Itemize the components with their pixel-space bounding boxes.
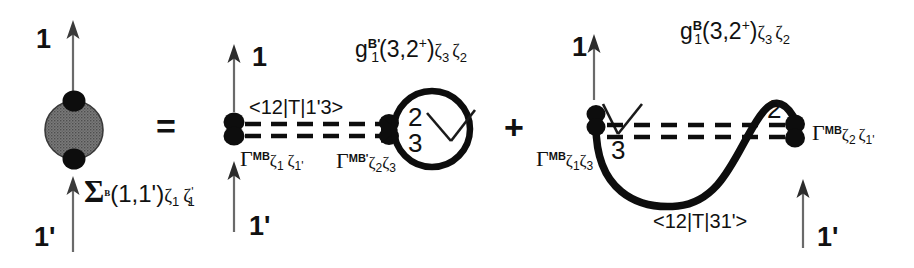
gamma-sub-zeta-a: ζ (270, 151, 277, 170)
g-argument-close: ) (427, 36, 435, 62)
gamma-sub-index-b: 1' (866, 133, 875, 147)
g-sub-zeta-a: ζ (435, 41, 442, 61)
g-symbol: g (355, 36, 368, 62)
g-arguments: (3,2 (379, 36, 419, 62)
gamma-sub-index-a: 1 (573, 159, 580, 173)
term2-interaction-dashes (607, 125, 790, 137)
term2-top-leg-label: 1 (572, 34, 587, 61)
term1-bottom-leg-label: 1' (249, 213, 270, 240)
g-sub-index-b: 2 (460, 50, 467, 65)
term1-propagator-loop (394, 91, 475, 167)
gamma-sub-index-a: 2 (849, 133, 856, 147)
term2-interaction-label: <12|T|31'> (653, 211, 747, 231)
g-sub-index: 1 (694, 31, 702, 47)
gamma-sub-zeta-a: ζ (566, 151, 573, 170)
g-sub-index-a: 3 (765, 32, 772, 47)
term2-left-line-label: 3 (611, 137, 625, 163)
sigma-sub-index-2: 1 (187, 194, 194, 209)
lhs-top-leg-label: 1 (36, 26, 51, 53)
term2-right-vertex-dot (785, 115, 805, 148)
gamma-symbol: Γ (240, 146, 253, 171)
gamma-superscript: MB (825, 124, 842, 136)
gamma-symbol: Γ (336, 148, 349, 173)
gamma-superscript: MB' (349, 152, 369, 164)
term2-propagator-curve (596, 103, 793, 206)
plus-operator: + (504, 110, 524, 144)
gamma-superscript: MB (253, 150, 270, 162)
gamma-sub-index-b: 3 (389, 161, 396, 175)
term2-propagator-label: gB1(3,2+)ζ3ζ2 (680, 18, 790, 46)
g-argument-plus: + (419, 35, 427, 51)
lhs-caption: ΣB(1,1')ζ1ζ'1 (84, 176, 195, 208)
g-sub-zeta-a: ζ (757, 23, 764, 43)
g-arguments: (3,2 (702, 18, 742, 44)
gamma-sub-index-b: 3 (587, 159, 594, 173)
term1-bottom-leg (228, 161, 241, 232)
gamma-superscript: MB (549, 150, 566, 162)
g-sub-zeta-b: ζ (452, 41, 459, 61)
gamma-sub-zeta-b: ζ (580, 151, 587, 170)
sigma-sub-index-1: 1 (172, 194, 179, 209)
gamma-sub-index-b: 1' (295, 159, 304, 173)
term1-loop-lower-label: 3 (408, 130, 422, 156)
term2-left-vertex-label: ΓMBζ1ζ3 (536, 148, 593, 172)
gamma-symbol: Γ (536, 146, 549, 171)
term1-left-vertex-dot (224, 113, 245, 146)
term2-right-line-label: 2 (767, 96, 781, 122)
term1-top-leg (228, 44, 241, 112)
term2-top-leg (588, 34, 601, 100)
lhs-top-leg (67, 20, 80, 93)
self-energy-blob-shape (45, 91, 103, 170)
lhs-bottom-leg (67, 176, 80, 252)
gamma-sub-zeta-b: ζ (859, 125, 866, 144)
gamma-sub-zeta-b: ζ (288, 151, 295, 170)
lhs-bottom-leg-label: 1' (34, 224, 55, 251)
term1-interaction-dashes (245, 124, 383, 136)
g-sub-index-b: 2 (783, 32, 790, 47)
gamma-symbol: Γ (812, 120, 825, 145)
g-sub-index-a: 3 (442, 50, 449, 65)
g-symbol: g (680, 18, 693, 44)
term1-interaction-label: <12|T|1'3> (249, 97, 343, 117)
term1-top-leg-label: 1 (252, 44, 267, 71)
gamma-sub-zeta-a: ζ (368, 153, 375, 172)
term2-left-vertex-dot (587, 105, 606, 136)
sigma-sub-zeta-1: ζ (164, 185, 172, 206)
gamma-sub-zeta-a: ζ (842, 125, 849, 144)
sigma-symbol: Σ (84, 174, 104, 209)
term1-left-vertex-label: ΓMBζ1ζ1' (240, 148, 304, 172)
term1-loop-upper-label: 2 (408, 104, 422, 130)
sigma-arguments: (1,1') (110, 180, 164, 207)
g-sub-index: 1 (371, 49, 379, 65)
term1-right-vertex-label: ΓMB'ζ2ζ3 (336, 150, 396, 174)
figure-canvas: 1 1' ΣB(1,1')ζ1ζ'1 = 1 1' <12|T|1'3> ΓMB… (0, 0, 914, 268)
equals-operator: = (156, 109, 176, 143)
term2-bottom-leg (797, 179, 810, 248)
term2-right-vertex-label: ΓMBζ2ζ1' (812, 122, 875, 146)
term2-bottom-leg-label: 1' (817, 224, 838, 251)
gamma-sub-index-a: 1 (277, 159, 284, 173)
g-sub-zeta-b: ζ (775, 23, 782, 43)
term1-propagator-label: gB'1(3,2+)ζ3ζ2 (355, 36, 467, 64)
g-argument-plus: + (742, 17, 750, 33)
